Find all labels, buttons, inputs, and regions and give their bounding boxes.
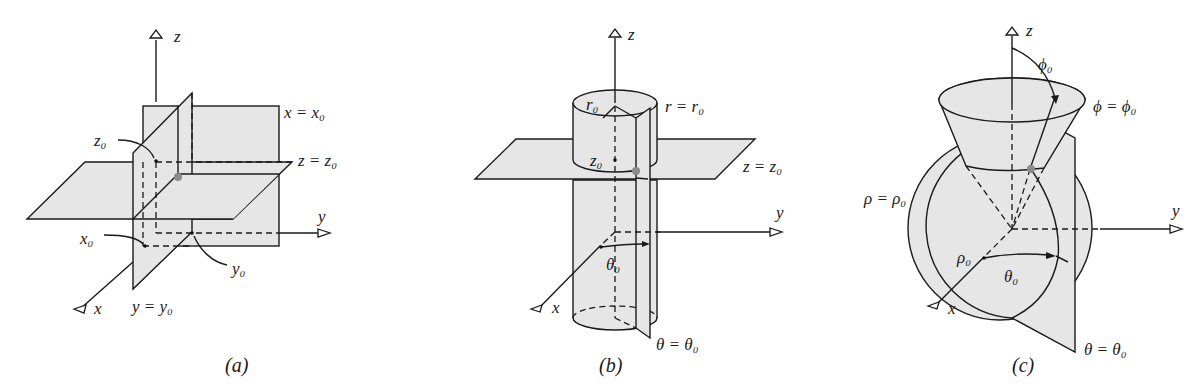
label-z-plane: z = z₀ [742, 157, 782, 176]
label-rho0: ρ₀ [956, 248, 971, 267]
x-axis-arrow-icon [531, 305, 542, 312]
label-phi0: ϕ₀ [1038, 55, 1053, 74]
label-y-plane: y = y₀ [130, 297, 173, 316]
label-cone: ϕ = ϕ₀ [1093, 97, 1137, 116]
y-axis-label: y [774, 203, 784, 222]
caption-c: (c) [1012, 354, 1035, 377]
y-axis-label: y [1170, 201, 1180, 220]
panel-b-cylindrical: z y x r₀ r = r₀ z₀ z = z₀ θ₀ θ = θ₀ (b) [475, 25, 784, 377]
x-axis-arrow-icon [928, 302, 939, 309]
label-z0: z₀ [93, 131, 107, 150]
z-axis-label: z [627, 25, 635, 44]
label-theta0: θ₀ [606, 255, 620, 274]
label-sphere: ρ = ρ₀ [863, 189, 906, 208]
x-axis [80, 262, 133, 309]
x-axis-label: x [947, 299, 956, 318]
z-axis-label: z [173, 27, 181, 46]
y-axis-arrow-icon [318, 229, 330, 237]
z-axis-arrow-icon [609, 29, 621, 37]
label-x0: x₀ [79, 229, 94, 248]
caption-b: (b) [599, 354, 623, 377]
label-theta-plane: θ = θ₀ [1084, 340, 1127, 359]
label-r0: r₀ [586, 95, 599, 114]
caption-a: (a) [225, 354, 249, 377]
label-cylinder: r = r₀ [665, 97, 704, 116]
y-axis-arrow-icon [1170, 225, 1182, 233]
z-axis-label: z [1025, 21, 1033, 40]
label-theta0: θ₀ [1004, 267, 1018, 286]
point-marker [1027, 165, 1035, 173]
z-axis-arrow-icon [1006, 27, 1018, 35]
panel-a-rectangular: z y x x = x₀ z = z₀ y = y₀ z₀ x₀ y₀ (a) [27, 27, 337, 377]
x-axis-arrow-icon [74, 305, 86, 313]
point-marker [174, 173, 182, 181]
z-axis-arrow-icon [150, 30, 162, 38]
label-theta-plane: θ = θ₀ [656, 335, 699, 354]
point-marker [632, 167, 640, 175]
plane-theta-equals-theta0 [636, 108, 650, 338]
y-axis-arrow-icon [770, 228, 782, 236]
label-z-plane: z = z₀ [297, 151, 337, 170]
coordinate-systems-diagram: z y x x = x₀ z = z₀ y = y₀ z₀ x₀ y₀ (a) [0, 0, 1187, 390]
x-axis-label: x [551, 298, 560, 317]
y-axis-label: y [316, 207, 326, 226]
x-axis-label: x [93, 299, 102, 318]
label-x-plane: x = x₀ [283, 103, 325, 122]
label-y0: y₀ [230, 259, 246, 278]
panel-c-spherical: z y x ϕ₀ ϕ = ϕ₀ ρ = ρ₀ ρ₀ θ₀ θ = θ₀ (c) [863, 21, 1182, 377]
label-z0: z₀ [589, 151, 603, 170]
